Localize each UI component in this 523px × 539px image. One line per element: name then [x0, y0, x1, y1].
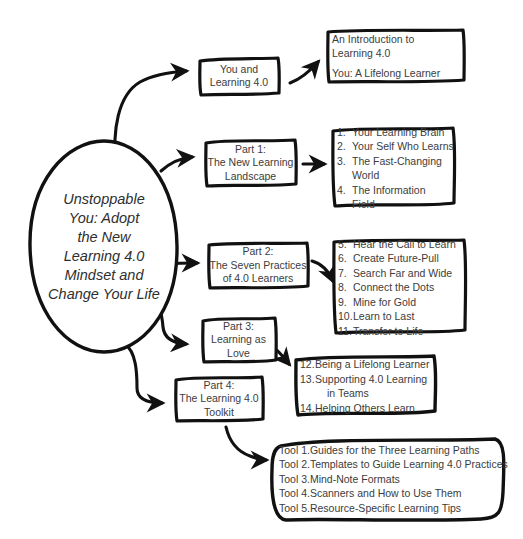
list-item-number: 7.	[338, 266, 353, 281]
list-item-continuation: in Teams	[300, 386, 369, 401]
node-label-line: Part 2:	[243, 245, 274, 259]
node-part3-label[interactable]: Part 3: Learning as Love	[202, 318, 275, 362]
list-item: 8. Connect the Dots	[338, 280, 434, 295]
connector-intro-to-list	[290, 62, 318, 83]
node-toolkit-detail[interactable]: Tool 1. Guides for the Three Learning Pa…	[273, 440, 503, 518]
connector-part4-to-tools	[226, 427, 266, 460]
list-item: 6. Create Future-Pull	[338, 251, 439, 266]
list-item-text: World	[352, 168, 379, 183]
list-item-text: The Information	[352, 183, 426, 198]
list-item-text: Supporting 4.0 Learning	[315, 372, 427, 387]
list-item-number: 14.	[300, 401, 315, 416]
detail-line: Learning 4.0	[332, 46, 390, 60]
node-label-line: Part 4:	[204, 379, 235, 393]
list-item-continuation: World	[337, 168, 379, 183]
node-label-line: The New Learning	[208, 156, 294, 170]
list-item-text: Being a Lifelong Learner	[315, 357, 429, 372]
list-item: Tool 5. Resource-Specific Learning Tips	[279, 501, 461, 516]
list-item-number: 11.	[338, 324, 353, 339]
list-item-number	[337, 168, 352, 183]
list-item: 7. Search Far and Wide	[338, 266, 452, 281]
node-label-line: Learning 4.0	[210, 76, 268, 90]
list-item-number: Tool 5.	[279, 501, 310, 516]
list-item-number: 1.	[337, 125, 352, 140]
list-item: Tool 4. Scanners and How to Use Them	[279, 486, 462, 501]
list-item-text: Your Self Who Learns	[352, 139, 454, 154]
central-node[interactable]: Unstoppable You: Adopt the New Learning …	[30, 142, 178, 351]
list-item-text: Templates to Guide Learning 4.0 Practice…	[310, 457, 508, 472]
node-label-line: You and	[220, 63, 258, 77]
central-node-line: Change Your Life	[48, 285, 160, 304]
node-label-line: Love	[227, 347, 250, 361]
central-node-line: Mindset and	[65, 266, 144, 285]
central-node-line: the New	[77, 228, 130, 247]
list-item-text: Create Future-Pull	[353, 251, 439, 266]
node-label-line: Part 1:	[235, 143, 266, 157]
node-part4-label[interactable]: Part 4: The Learning 4.0 Toolkit	[175, 377, 263, 421]
list-item: 2. Your Self Who Learns	[337, 139, 454, 154]
list-item-number: 9.	[338, 295, 353, 310]
node-intro-label[interactable]: You and Learning 4.0	[199, 58, 279, 94]
list-item-number: 13.	[300, 372, 315, 387]
node-intro-detail[interactable]: An Introduction to Learning 4.0 You: A L…	[328, 30, 464, 82]
node-label-line: The Learning 4.0	[179, 392, 258, 406]
node-part3-detail[interactable]: 12. Being a Lifelong Learner 13. Support…	[296, 357, 436, 415]
list-item-text: Scanners and How to Use Them	[310, 486, 462, 501]
central-node-line: You: Adopt	[69, 209, 139, 228]
node-part2-detail[interactable]: 5. Hear the Call to Learn 6. Create Futu…	[334, 241, 465, 334]
list-item-number: 10.	[338, 309, 353, 324]
list-item-continuation: Field	[337, 197, 375, 212]
list-item-number: Tool 4.	[279, 486, 310, 501]
list-item-text: Field	[352, 197, 375, 212]
node-label-line: Landscape	[225, 170, 276, 184]
list-item: 10. Learn to Last	[338, 309, 414, 324]
list-item-text: The Fast-Changing	[352, 154, 442, 169]
list-item-number: 6.	[338, 251, 353, 266]
list-item-text: Connect the Dots	[353, 280, 434, 295]
list-item-text: Resource-Specific Learning Tips	[310, 501, 461, 516]
list-item: 5. Hear the Call to Learn	[338, 237, 456, 252]
list-item: 11. Transfer to Life	[338, 324, 423, 339]
list-item: 1. Your Learning Brain	[337, 125, 444, 140]
list-item-text: Mine for Gold	[353, 295, 416, 310]
list-item: 14. Helping Others Learn	[300, 401, 415, 416]
list-item-number: 12.	[300, 357, 315, 372]
node-label-line: Learning as	[211, 333, 266, 347]
central-node-line: Unstoppable	[63, 190, 144, 209]
list-item-text: Transfer to Life	[353, 324, 423, 339]
node-label-line: Toolkit	[204, 406, 234, 420]
list-item-number	[337, 197, 352, 212]
list-item-text: Hear the Call to Learn	[353, 237, 456, 252]
list-item: Tool 3. Mind-Note Formats	[279, 472, 400, 487]
node-label-line: of 4.0 Learners	[223, 272, 294, 286]
list-item-text: Mind-Note Formats	[310, 472, 400, 487]
node-part1-detail[interactable]: 1. Your Learning Brain 2. Your Self Who …	[333, 129, 454, 207]
list-item-number: 4.	[337, 183, 352, 198]
list-item: 9. Mine for Gold	[338, 295, 416, 310]
list-item-number: 8.	[338, 280, 353, 295]
list-item: Tool 1. Guides for the Three Learning Pa…	[279, 443, 480, 458]
list-item-number: Tool 3.	[279, 472, 310, 487]
list-item-number	[300, 386, 315, 401]
list-item: Tool 2. Templates to Guide Learning 4.0 …	[279, 457, 508, 472]
list-item-text: Helping Others Learn	[315, 401, 415, 416]
list-item-text: Search Far and Wide	[353, 266, 452, 281]
node-part2-label[interactable]: Part 2: The Seven Practices of 4.0 Learn…	[208, 243, 308, 288]
diagram-canvas: Unstoppable You: Adopt the New Learning …	[0, 0, 523, 539]
list-item-text: Your Learning Brain	[352, 125, 444, 140]
list-item: 3. The Fast-Changing	[337, 154, 442, 169]
node-label-line: The Seven Practices	[210, 259, 307, 273]
list-item-number: 5.	[338, 237, 353, 252]
list-item-number: 2.	[337, 139, 352, 154]
list-item-text: in Teams	[315, 386, 369, 401]
list-item: 4. The Information	[337, 183, 426, 198]
list-item-number: Tool 1.	[279, 443, 310, 458]
node-part1-label[interactable]: Part 1: The New Learning Landscape	[205, 140, 296, 186]
detail-line: You: A Lifelong Learner	[332, 66, 440, 80]
detail-line: An Introduction to	[332, 32, 414, 46]
list-item: 13. Supporting 4.0 Learning	[300, 372, 427, 387]
list-item-text: Learn to Last	[353, 309, 414, 324]
central-node-line: Learning 4.0	[64, 247, 145, 266]
list-item: 12. Being a Lifelong Learner	[300, 357, 429, 372]
list-item-text: Guides for the Three Learning Paths	[310, 443, 480, 458]
